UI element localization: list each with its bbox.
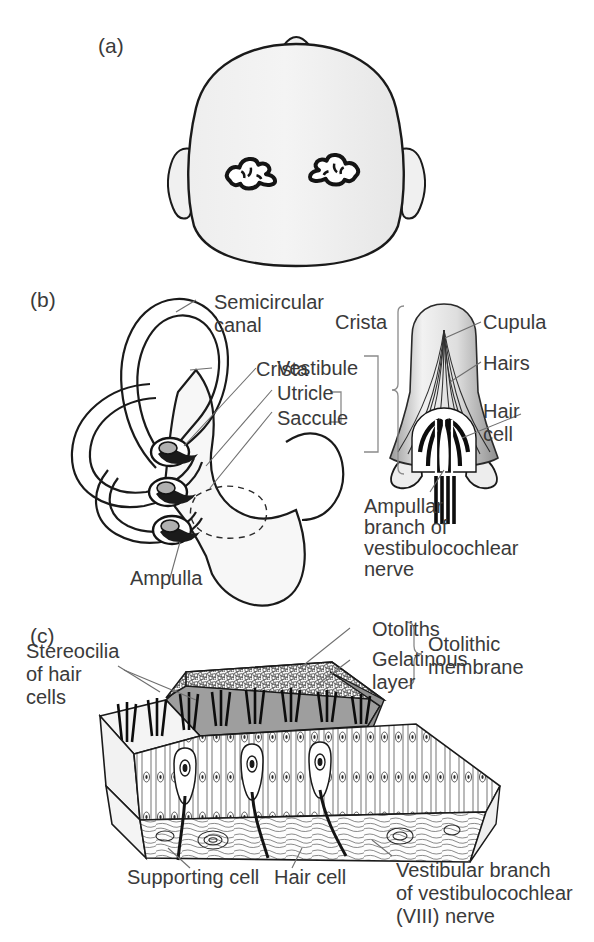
label-ampullar-nerve-line4: nerve xyxy=(364,558,414,581)
label-gelatinous-line2: layer xyxy=(372,671,415,694)
label-hair-cell: Hair cell xyxy=(274,866,346,889)
label-semicircular-canal-line2: canal xyxy=(214,314,262,337)
panel-b-tag: (b) xyxy=(30,288,56,312)
label-ampullar-nerve-line2: branch of xyxy=(364,516,447,539)
panel-a-tag: (a) xyxy=(98,34,124,58)
anatomy-figure: (a) (b) (c) Semicircular canal Crista Am… xyxy=(0,0,594,942)
label-vestibular-branch-line2: of vestibulocochlear xyxy=(396,882,573,905)
label-cupula: Cupula xyxy=(483,311,546,334)
label-stereocilia-line3: cells xyxy=(26,686,66,709)
label-ampullar-nerve-line1: Ampullar xyxy=(364,495,443,518)
label-hair-cell-line1: Hair xyxy=(483,400,520,423)
label-vestibular-branch-line3: (VIII) nerve xyxy=(396,905,495,928)
label-hair-cell-line2: cell xyxy=(483,423,513,446)
label-hairs: Hairs xyxy=(483,352,530,375)
panel-a-head-diagram xyxy=(168,37,425,266)
label-saccule: Saccule xyxy=(277,407,348,430)
label-semicircular-canal-line1: Semicircular xyxy=(214,291,324,314)
hair-cell-rosette xyxy=(412,408,476,476)
label-otolithic-membrane-line2: membrane xyxy=(428,656,524,679)
label-stereocilia-line2: of hair xyxy=(26,663,82,686)
figure-canvas xyxy=(0,0,594,942)
label-ampullar-nerve-line3: vestibulocochlear xyxy=(364,537,519,560)
label-vestibule: Vestibule xyxy=(277,357,358,380)
label-vestibular-branch-line1: Vestibular branch xyxy=(396,859,551,882)
label-supporting-cell: Supporting cell xyxy=(127,866,259,889)
label-crista-bracket: Crista xyxy=(335,311,387,334)
label-stereocilia-line1: Stereocilia xyxy=(26,640,119,663)
label-utricle: Utricle xyxy=(277,382,334,405)
panel-b-labyrinth-drawing xyxy=(72,299,343,606)
label-ampulla: Ampulla xyxy=(130,567,202,590)
label-otolithic-membrane-line1: Otolithic xyxy=(428,633,500,656)
